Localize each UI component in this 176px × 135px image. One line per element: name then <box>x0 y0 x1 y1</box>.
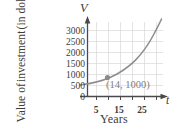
y-tick-label-2500: 2500 <box>52 38 85 48</box>
y-tick-label-0: 0 <box>52 93 85 103</box>
t-axis-line <box>80 94 168 100</box>
data-point-annotation: (14, 1000) <box>106 79 150 90</box>
x-axis-caption: Years <box>78 112 150 127</box>
v-axis-symbol: V <box>80 1 88 16</box>
t-axis-symbol: t <box>166 94 169 106</box>
y-tick-label-1000: 1000 <box>52 71 85 81</box>
y-tick-label-2000: 2000 <box>52 49 85 59</box>
investment-growth-graph: Value of investment (in dollars) 3000 25… <box>0 0 176 135</box>
y-tick-label-1500: 1500 <box>52 60 85 70</box>
y-tick-label-500: 500 <box>52 82 85 92</box>
y-tick-label-3000: 3000 <box>52 27 85 37</box>
